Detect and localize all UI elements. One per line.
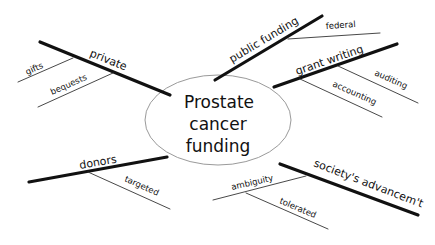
sub-label-federal: federal: [325, 19, 356, 31]
sub-label-ambiguity: ambiguity: [230, 173, 274, 192]
branch-private: private gifts bequests: [18, 42, 170, 107]
sub-label-tolerated: tolerated: [278, 196, 318, 220]
center-node-line-2: cancer: [189, 114, 246, 134]
sub-label-auditing: auditing: [373, 68, 409, 91]
center-node-line-3: funding: [186, 136, 251, 156]
branch-donors: donors targeted: [29, 153, 170, 209]
sub-label-accounting: accounting: [331, 79, 378, 107]
branch-grant-writing: grant writing auditing accounting: [274, 42, 418, 117]
sub-line-federal: [288, 33, 380, 39]
mind-map-canvas: Prostate cancer funding private gifts be…: [0, 0, 435, 245]
sub-label-gifts: gifts: [24, 60, 45, 77]
sub-label-targeted: targeted: [123, 174, 160, 198]
branch-societys-advancement: society's advancem't ambiguity tolerated: [213, 157, 426, 229]
branch-label-public-funding: public funding: [227, 14, 301, 66]
center-node-line-1: Prostate: [184, 92, 254, 112]
